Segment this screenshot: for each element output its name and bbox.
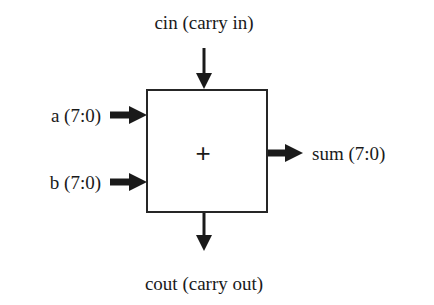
a-input-arrow-icon (110, 106, 147, 124)
port-label-cout: cout (carry out) (145, 274, 263, 293)
sum-output-arrow-icon (268, 144, 303, 162)
port-label-sum: sum (7:0) (312, 144, 385, 163)
b-input-arrow-icon (110, 173, 147, 191)
port-label-b: b (7:0) (50, 173, 101, 192)
cin-arrow-icon (196, 48, 212, 89)
port-label-a: a (7:0) (51, 106, 101, 125)
adder-diagram: + cin (carry in) a (7:0) b (7:0) sum (7:… (0, 0, 434, 305)
plus-operator-symbol: + (195, 140, 210, 166)
cout-output-arrow-icon (196, 213, 212, 251)
port-label-cin: cin (carry in) (154, 13, 253, 32)
